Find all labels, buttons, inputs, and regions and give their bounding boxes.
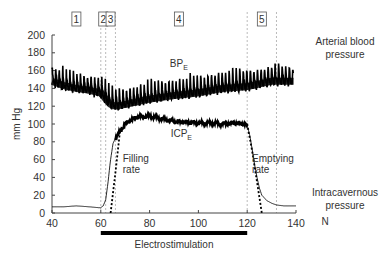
phase-label-text: 3	[108, 14, 114, 25]
electrostimulation-bar	[101, 231, 247, 235]
icp-series-label: ICPE	[171, 128, 193, 141]
y-tick-label: 160	[27, 64, 45, 76]
arterial-pressure-label-line2: pressure	[326, 49, 365, 60]
electrostimulation-label: Electrostimulation	[135, 239, 214, 250]
icp-label-line1: Intracavernous	[312, 187, 378, 198]
x-tick-label: 120	[238, 217, 256, 229]
axes: 0204060801001201401601802004060801001201…	[27, 29, 304, 230]
x-tick-label: 140	[287, 217, 305, 229]
y-tick-label: 80	[33, 135, 45, 147]
arterial-pressure-label-line1: Arterial blood	[316, 36, 375, 47]
y-tick-label: 100	[27, 118, 45, 130]
x-tick-label: 60	[95, 217, 107, 229]
phase-label-text: 1	[74, 14, 80, 25]
phase-label-text: 2	[100, 14, 106, 25]
icp-series-label-subscript: E	[187, 134, 192, 141]
phase-label-5: 5	[257, 12, 266, 26]
pressure-chart: 12345 0204060801001201401601802004060801…	[0, 0, 384, 260]
y-tick-label: 200	[27, 29, 45, 41]
annotation-text: Filling	[123, 153, 149, 164]
icp-label-line2: pressure	[326, 200, 365, 211]
annotations: FillingrateEmptyingrate	[123, 153, 294, 175]
y-tick-label: 40	[33, 171, 45, 183]
phase-label-3: 3	[106, 12, 115, 26]
phase-label-text: 4	[176, 14, 182, 25]
annotation-text: Emptying	[252, 153, 294, 164]
y-tick-label: 140	[27, 82, 45, 94]
x-tick-label: 100	[190, 217, 208, 229]
phase-label-text: 5	[259, 14, 265, 25]
series-layer: BPEICPE	[52, 58, 296, 213]
x-tick-label: 40	[46, 217, 58, 229]
phase-label-1: 1	[72, 12, 81, 26]
y-tick-label: 0	[39, 207, 45, 219]
bp-series-label-subscript: E	[183, 64, 188, 71]
annotation-text: rate	[123, 164, 141, 175]
phase-boundary-lines	[101, 12, 277, 213]
bp-series-label: BPE	[170, 58, 188, 71]
annotation-text: rate	[252, 164, 270, 175]
x-unit-label: N	[321, 216, 328, 227]
y-tick-label: 20	[33, 189, 45, 201]
x-tick-label: 80	[144, 217, 156, 229]
phase-labels: 12345	[72, 12, 266, 26]
y-tick-label: 60	[33, 153, 45, 165]
phase-label-4: 4	[174, 12, 183, 26]
y-tick-label: 120	[27, 100, 45, 112]
y-axis-label: mm Hg	[11, 108, 22, 140]
y-tick-label: 180	[27, 46, 45, 58]
